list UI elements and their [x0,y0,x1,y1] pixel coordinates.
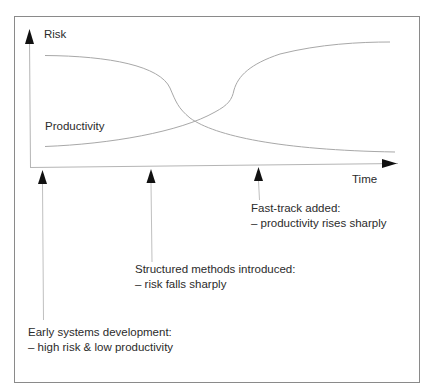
productivity-curve-label: Productivity [45,119,104,134]
annotation-fasttrack-title: Fast-track added: [251,201,387,216]
x-axis-arrowhead-icon [382,159,397,168]
marker-early-arrowhead-icon [38,170,47,184]
annotation-early-title: Early systems development: [28,325,173,340]
annotation-fasttrack-detail: – productivity rises sharply [251,216,387,231]
y-axis-label: Risk [44,27,66,42]
annotation-fasttrack: Fast-track added: – productivity rises s… [251,201,387,231]
y-axis-arrowhead-icon [25,29,34,44]
annotation-structured-title: Structured methods introduced: [135,262,295,277]
risk-curve [45,56,395,153]
annotation-early-detail: – high risk & low productivity [28,340,173,355]
x-axis-label: Time [352,172,377,187]
annotation-structured: Structured methods introduced: – risk fa… [135,262,295,292]
marker-fasttrack-line [259,181,260,200]
marker-structured-line [151,183,152,262]
risk-productivity-diagram: Risk Time Productivity Fast-track added:… [0,0,428,389]
y-axis-line [30,40,31,168]
x-axis-line [30,164,398,168]
marker-fasttrack-arrowhead-icon [254,167,263,181]
marker-early-line [43,184,44,320]
marker-structured-arrowhead-icon [147,169,156,183]
annotation-structured-detail: – risk falls sharply [135,277,295,292]
annotation-early: Early systems development: – high risk &… [28,325,173,355]
